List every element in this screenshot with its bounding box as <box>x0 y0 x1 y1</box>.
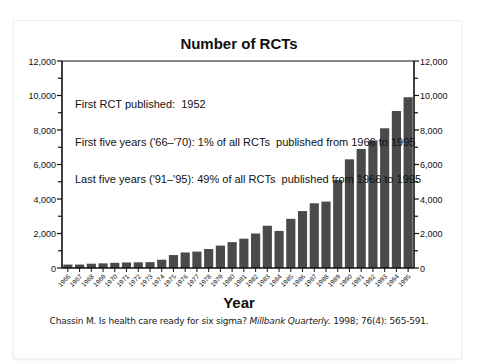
x-tick-label: 1995 <box>397 272 412 287</box>
bar <box>204 249 213 268</box>
bar <box>251 234 260 269</box>
bar <box>310 203 319 268</box>
annotation-last-five-years: Last five years ('91–'95): 49% of all RC… <box>75 173 421 186</box>
y-tick-label-left: 2,000 <box>33 229 56 239</box>
annotation-first-rct: First RCT published: 1952 <box>75 98 421 111</box>
bar <box>122 262 131 268</box>
y-tick-label-left: 4,000 <box>33 195 56 205</box>
bar <box>239 239 248 268</box>
bar <box>321 202 330 268</box>
bar <box>274 231 283 268</box>
bar <box>298 211 307 268</box>
bar <box>216 246 225 268</box>
bar <box>181 252 190 268</box>
chart-annotations: First RCT published: 1952 First five yea… <box>75 73 421 198</box>
y-tick-label-right: 10,000 <box>420 91 448 101</box>
bar <box>263 226 272 268</box>
bar <box>192 252 201 268</box>
y-tick-label-right: 4,000 <box>420 195 443 205</box>
citation: Chassin M. Is health care ready for six … <box>0 316 478 326</box>
y-tick-label-left: 10,000 <box>28 91 56 101</box>
bar <box>157 260 166 268</box>
y-tick-label-left: 0 <box>51 264 56 274</box>
y-tick-label-left: 8,000 <box>33 126 56 136</box>
y-tick-label-right: 0 <box>420 264 425 274</box>
bar <box>228 242 237 268</box>
y-tick-label-right: 12,000 <box>420 57 448 67</box>
bar <box>286 219 295 268</box>
y-tick-label-right: 8,000 <box>420 126 443 136</box>
annotation-first-five-years: First five years ('66–'70): 1% of all RC… <box>75 136 421 149</box>
bar <box>145 262 154 268</box>
y-tick-label-left: 6,000 <box>33 160 56 170</box>
x-axis-label: Year <box>0 294 478 311</box>
bar <box>134 262 143 268</box>
y-tick-label-right: 6,000 <box>420 160 443 170</box>
bar <box>169 255 178 268</box>
y-tick-label-right: 2,000 <box>420 229 443 239</box>
y-tick-label-left: 12,000 <box>28 57 56 67</box>
